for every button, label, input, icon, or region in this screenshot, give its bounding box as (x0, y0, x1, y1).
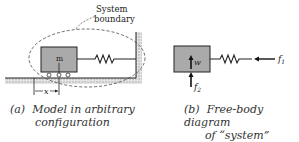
ground-hatch (5, 78, 138, 84)
mass-label: m (56, 54, 63, 63)
wheel (47, 73, 51, 77)
wall-hatch (136, 32, 142, 84)
wheel (66, 73, 70, 77)
wheels (47, 73, 70, 77)
caption-a-line1: Model in arbitrary (32, 103, 135, 116)
caption-a-tag: (a) (10, 103, 25, 116)
x-label: x (44, 87, 49, 96)
caption-b-tag: (b) (184, 103, 200, 116)
caption-b-line2: of “system” (184, 129, 269, 142)
force1-label: f1 (277, 54, 285, 65)
system-label-line2: boundary (94, 14, 135, 24)
system-label-line1: System (96, 4, 128, 14)
spring-a (77, 55, 136, 63)
caption-a: (a) Model in arbitrary configuration (10, 103, 135, 129)
boundary-leader (76, 16, 96, 29)
force2-arrowhead (189, 72, 194, 77)
spring-b (210, 55, 252, 63)
force2-label: f2 (193, 82, 201, 93)
force1-arrowhead (254, 57, 259, 62)
x-arrowhead (55, 90, 58, 93)
weight-label: w (194, 58, 201, 67)
wheel (57, 73, 61, 77)
caption-b: (b) Free-body diagram of “system” (184, 103, 299, 142)
caption-a-line2: configuration (10, 116, 110, 129)
